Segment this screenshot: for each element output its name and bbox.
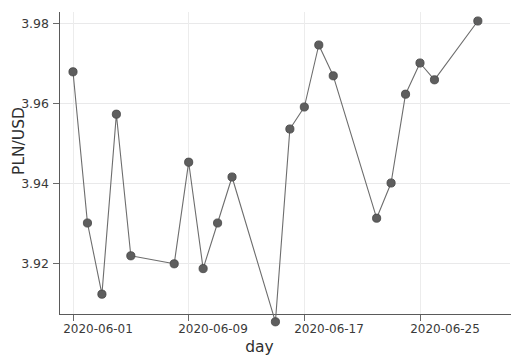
gridline-horizontal-3-96 bbox=[60, 103, 510, 104]
y-tick-mark-3-92 bbox=[53, 263, 59, 264]
x-tick-label-2020-06-01: 2020-06-01 bbox=[63, 322, 133, 336]
y-tick-mark-3-96 bbox=[53, 103, 59, 104]
x-tick-mark-2020-06-09 bbox=[188, 315, 189, 321]
y-axis-title: PLN/USD bbox=[10, 61, 28, 221]
x-tick-label-2020-06-09: 2020-06-09 bbox=[178, 322, 248, 336]
x-tick-mark-2020-06-17 bbox=[304, 315, 305, 321]
x-axis-title: day bbox=[0, 338, 519, 356]
gridline-horizontal-3-92 bbox=[60, 263, 510, 264]
gridline-horizontal-3-94 bbox=[60, 183, 510, 184]
gridline-vertical-2020-06-25 bbox=[420, 12, 421, 314]
y-tick-mark-3-98 bbox=[53, 23, 59, 24]
x-tick-mark-2020-06-01 bbox=[73, 315, 74, 321]
x-tick-label-2020-06-25: 2020-06-25 bbox=[410, 322, 480, 336]
chart-container: 3.98 3.96 3.94 3.92 2020-06-01 2020-06-0… bbox=[0, 0, 519, 363]
gridline-vertical-2020-06-01 bbox=[73, 12, 74, 314]
x-axis-spine bbox=[59, 314, 511, 315]
gridline-horizontal-3-98 bbox=[60, 23, 510, 24]
gridline-vertical-2020-06-17 bbox=[304, 12, 305, 314]
y-axis-spine bbox=[59, 12, 60, 315]
plot-area bbox=[60, 12, 510, 314]
gridline-vertical-2020-06-09 bbox=[188, 12, 189, 314]
x-tick-mark-2020-06-25 bbox=[420, 315, 421, 321]
y-tick-label-3-98: 3.98 bbox=[0, 16, 49, 31]
y-tick-mark-3-94 bbox=[53, 183, 59, 184]
x-tick-label-2020-06-17: 2020-06-17 bbox=[294, 322, 364, 336]
y-tick-label-3-92: 3.92 bbox=[0, 256, 49, 271]
data-point bbox=[271, 318, 279, 326]
